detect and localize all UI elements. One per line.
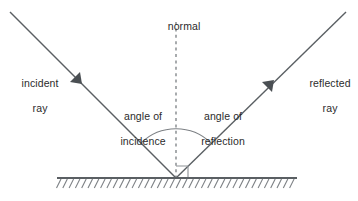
hatch-tick — [227, 179, 232, 188]
hatch-tick — [220, 179, 225, 188]
hatch-tick — [151, 179, 156, 188]
hatch-tick — [271, 179, 276, 188]
hatch-tick — [201, 179, 206, 188]
label-reflected-ray-line1: reflected — [309, 77, 350, 89]
hatch-tick — [189, 179, 194, 188]
hatch-tick — [176, 179, 181, 188]
label-normal-text: normal — [168, 20, 201, 32]
hatch-tick — [57, 179, 62, 188]
label-angle-of-reflection-line2: reflection — [201, 135, 245, 147]
hatch-tick — [107, 179, 112, 188]
label-angle-of-reflection-line1: angle of — [204, 110, 242, 122]
hatch-tick — [208, 179, 213, 188]
hatch-tick — [145, 179, 150, 188]
hatch-tick — [290, 179, 295, 188]
label-angle-of-reflection: angle of reflection — [183, 97, 251, 160]
hatch-tick — [126, 179, 131, 188]
hatch-tick — [69, 179, 74, 188]
hatch-tick — [101, 179, 106, 188]
label-incident-ray-line1: incident — [22, 77, 59, 89]
label-angle-of-incidence-line1: angle of — [124, 110, 162, 122]
hatch-tick — [264, 179, 269, 188]
hatch-tick — [120, 179, 125, 188]
hatch-tick — [246, 179, 251, 188]
hatch-tick — [195, 179, 200, 188]
hatch-tick — [113, 179, 118, 188]
hatch-tick — [258, 179, 263, 188]
hatch-tick — [132, 179, 137, 188]
hatch-tick — [214, 179, 219, 188]
label-reflected-ray: reflected ray — [294, 64, 354, 127]
hatch-tick — [82, 179, 87, 188]
label-incident-ray: incident ray — [6, 64, 62, 127]
hatch-tick — [94, 179, 99, 188]
reflection-diagram: normal incident ray reflected ray angle … — [0, 0, 358, 201]
label-reflected-ray-line2: ray — [323, 102, 338, 114]
reflected-ray-arrowhead-icon — [262, 80, 274, 92]
label-incident-ray-line2: ray — [33, 102, 48, 114]
hatch-tick — [283, 179, 288, 188]
label-normal: normal — [150, 7, 206, 45]
hatch-tick — [239, 179, 244, 188]
hatch-tick — [88, 179, 93, 188]
hatch-tick — [183, 179, 188, 188]
hatch-tick — [138, 179, 143, 188]
hatch-tick — [170, 179, 175, 188]
hatch-tick — [63, 179, 68, 188]
hatch-tick — [157, 179, 162, 188]
hatch-tick — [277, 179, 282, 188]
hatch-tick — [233, 179, 238, 188]
surface-hatching — [57, 179, 295, 188]
hatch-tick — [164, 179, 169, 188]
hatch-tick — [75, 179, 80, 188]
label-angle-of-incidence-line2: incidence — [120, 135, 165, 147]
hatch-tick — [252, 179, 256, 188]
label-angle-of-incidence: angle of incidence — [105, 97, 169, 160]
